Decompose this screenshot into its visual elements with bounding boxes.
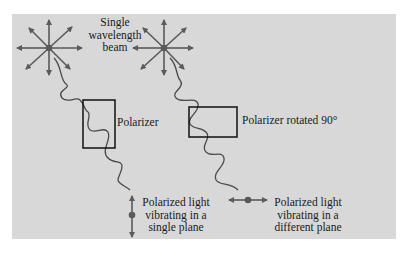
result-2-line-3: different plane <box>272 221 344 234</box>
source-label-line-3: beam <box>84 41 146 54</box>
polarizer-2-label: Polarizer rotated 90° <box>242 114 337 127</box>
result-1-label: Polarized light vibrating in a single pl… <box>140 196 212 234</box>
polarizer-1-label: Polarizer <box>117 116 159 129</box>
source-label-line-2: wavelength <box>84 29 146 42</box>
source-label-line-1: Single <box>84 16 146 29</box>
result-2-line-1: Polarized light <box>272 196 344 209</box>
result-2-line-2: vibrating in a <box>272 209 344 222</box>
result-1-line-3: single plane <box>140 221 212 234</box>
result-2-label: Polarized light vibrating in a different… <box>272 196 344 234</box>
result-1-line-2: vibrating in a <box>140 209 212 222</box>
source-label: Single wavelength beam <box>84 16 146 54</box>
unpolarized-light-icon-1 <box>17 20 82 75</box>
vertical-polarization-icon <box>129 196 136 237</box>
result-1-line-1: Polarized light <box>140 196 212 209</box>
light-wave-2 <box>170 58 238 190</box>
horizontal-polarization-icon <box>229 197 267 204</box>
